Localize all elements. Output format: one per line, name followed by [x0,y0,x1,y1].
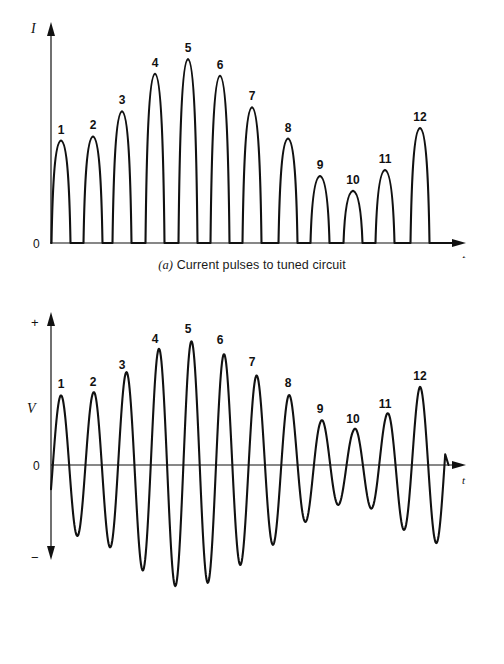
peak-label-5: 5 [185,41,192,55]
axes-group-a [47,22,466,247]
peak-label-11: 11 [379,397,392,411]
peak-label-6: 6 [217,333,224,347]
peak-label-9: 9 [317,158,324,172]
peak-label-2: 2 [90,375,97,389]
peak-label-7: 7 [249,355,256,369]
am-voltage-chart: V + − 0 t 123456789101112 [0,290,504,636]
x-axis-label: t [462,474,466,486]
current-pulses-chart: I t 0 123456789101112 [0,0,504,258]
y-axis-arrowhead [47,22,55,36]
x-axis-arrowhead [452,239,466,247]
origin-label: 0 [33,237,40,251]
y-axis-label: V [27,401,37,416]
peak-number-labels: 123456789101112 [58,322,427,425]
peak-label-3: 3 [119,358,126,372]
y-axis-arrowhead-down [47,546,55,560]
negative-sign-label: − [31,550,39,565]
panel-am-voltage: V + − 0 t 123456789101112 (b) Tuned-circ… [0,290,504,664]
peak-label-1: 1 [58,377,65,391]
peak-label-7: 7 [249,89,256,103]
figure-page: I t 0 123456789101112 (a) Current pulses… [0,0,504,664]
caption-tag-a: (a) [158,258,173,272]
peak-label-4: 4 [152,332,159,346]
peak-label-1: 1 [58,123,65,137]
peak-label-5: 5 [185,322,192,336]
peak-label-6: 6 [217,58,224,72]
positive-sign-label: + [31,315,39,330]
peak-label-8: 8 [285,376,292,390]
y-axis-arrowhead-up [47,312,55,326]
peak-label-10: 10 [346,173,360,187]
peak-label-12: 12 [413,369,427,383]
x-axis-arrowhead [452,461,466,469]
y-axis-label: I [30,21,37,36]
peak-label-8: 8 [285,121,292,135]
peak-label-2: 2 [90,118,97,132]
peak-label-3: 3 [119,93,126,107]
peak-label-10: 10 [346,412,360,426]
peak-label-11: 11 [379,152,392,166]
peak-label-4: 4 [152,56,159,70]
current-pulse-waveform [51,59,452,243]
peak-label-9: 9 [317,402,324,416]
caption-panel-a: (a) Current pulses to tuned circuit [0,258,504,273]
caption-body-a: Current pulses to tuned circuit [177,258,346,272]
panel-current-pulses: I t 0 123456789101112 (a) Current pulses… [0,0,504,290]
origin-label: 0 [33,459,40,473]
am-voltage-waveform [51,341,449,586]
axes-group-b [47,312,466,560]
peak-label-12: 12 [413,110,427,124]
peak-number-labels: 123456789101112 [58,41,427,187]
